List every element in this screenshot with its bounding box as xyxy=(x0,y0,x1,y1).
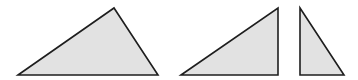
triangle-diagram xyxy=(0,0,358,80)
right-right-triangle xyxy=(300,8,344,75)
left-right-triangle xyxy=(181,8,278,75)
original-triangle xyxy=(18,8,158,75)
